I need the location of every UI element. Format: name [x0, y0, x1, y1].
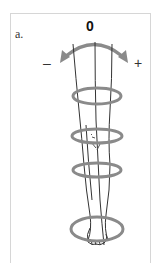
ring-knee [73, 163, 121, 177]
ring-hip [73, 88, 121, 104]
rotation-arrow-icon [60, 45, 128, 64]
ring-ankle [71, 217, 123, 241]
